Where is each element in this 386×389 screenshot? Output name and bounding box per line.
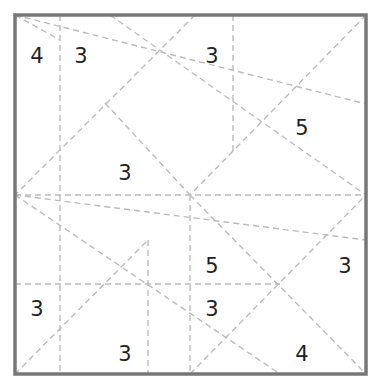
dashed-line (190, 15, 366, 195)
dashed-line (15, 15, 366, 104)
clue-number[interactable]: 5 (295, 118, 308, 139)
clue-number[interactable]: 3 (74, 46, 87, 67)
clue-number[interactable]: 3 (30, 299, 43, 320)
clue-number[interactable]: 4 (30, 46, 43, 67)
region-lines (15, 15, 366, 374)
puzzle-board[interactable] (0, 0, 386, 389)
dashed-line (110, 15, 366, 195)
clue-number[interactable]: 3 (118, 344, 131, 365)
dashed-line (15, 15, 195, 195)
clue-number[interactable]: 3 (338, 256, 351, 277)
dashed-line (15, 15, 60, 40)
clue-number[interactable]: 4 (295, 344, 308, 365)
clue-number[interactable]: 5 (205, 256, 218, 277)
clue-number[interactable]: 3 (205, 299, 218, 320)
clue-number[interactable]: 3 (118, 163, 131, 184)
clue-number[interactable]: 3 (205, 46, 218, 67)
